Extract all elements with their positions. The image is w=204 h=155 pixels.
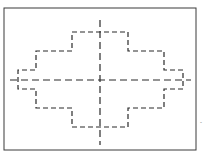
diagram-canvas: - bbox=[0, 0, 204, 155]
stray-mark: - bbox=[200, 119, 202, 125]
